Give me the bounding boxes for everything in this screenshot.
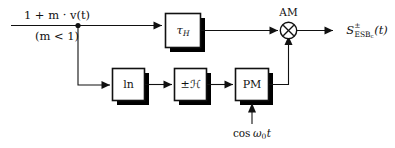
phase-modulator-block[interactable]: PM [236,69,274,106]
am-multiplier[interactable] [280,22,296,38]
block-diagram: 1 + m · v(t) (m < 1) τH [0,0,395,148]
wire-output [297,27,333,35]
arrowhead-into-multiplier [270,27,279,35]
am-label: AM [278,6,298,18]
output-label: S±ESBc(t) [346,21,388,40]
wire-input-to-tau [104,22,162,30]
wire-tau-to-multiplier [201,27,279,35]
arrowhead-into-tau [154,22,163,30]
delay-block[interactable]: τH [166,14,206,53]
input-numerator: 1 + m · v(t) [24,8,90,22]
hilbert-transform-block[interactable]: ±ℋ [175,69,212,106]
ln-block-label: ln [123,78,134,91]
carrier-label: cosω0t [233,127,272,140]
arrowhead-into-pm [225,81,234,89]
input-denominator: (m < 1) [35,29,79,43]
arrowhead-into-ln [102,81,111,89]
natural-log-block[interactable]: ln [113,69,150,106]
hilbert-block-label: ±ℋ [180,78,200,91]
arrowhead-output [325,27,334,35]
arrowhead-into-hilbert [164,81,173,89]
wire-branch-to-ln [78,26,110,90]
input-expression: 1 + m · v(t) (m < 1) [11,8,104,43]
pm-block-label: PM [243,78,262,91]
wire-carrier-to-pm [248,103,256,124]
